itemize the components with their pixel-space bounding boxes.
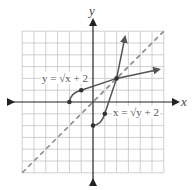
graph-canvas (0, 0, 192, 190)
y-axis-label: y (89, 3, 95, 19)
equation-label-x-sqrt: x = √y + 2 (112, 106, 160, 118)
equation-label-y-sqrt: y = √x + 2 (41, 72, 89, 84)
x-axis-label: x (181, 94, 187, 110)
